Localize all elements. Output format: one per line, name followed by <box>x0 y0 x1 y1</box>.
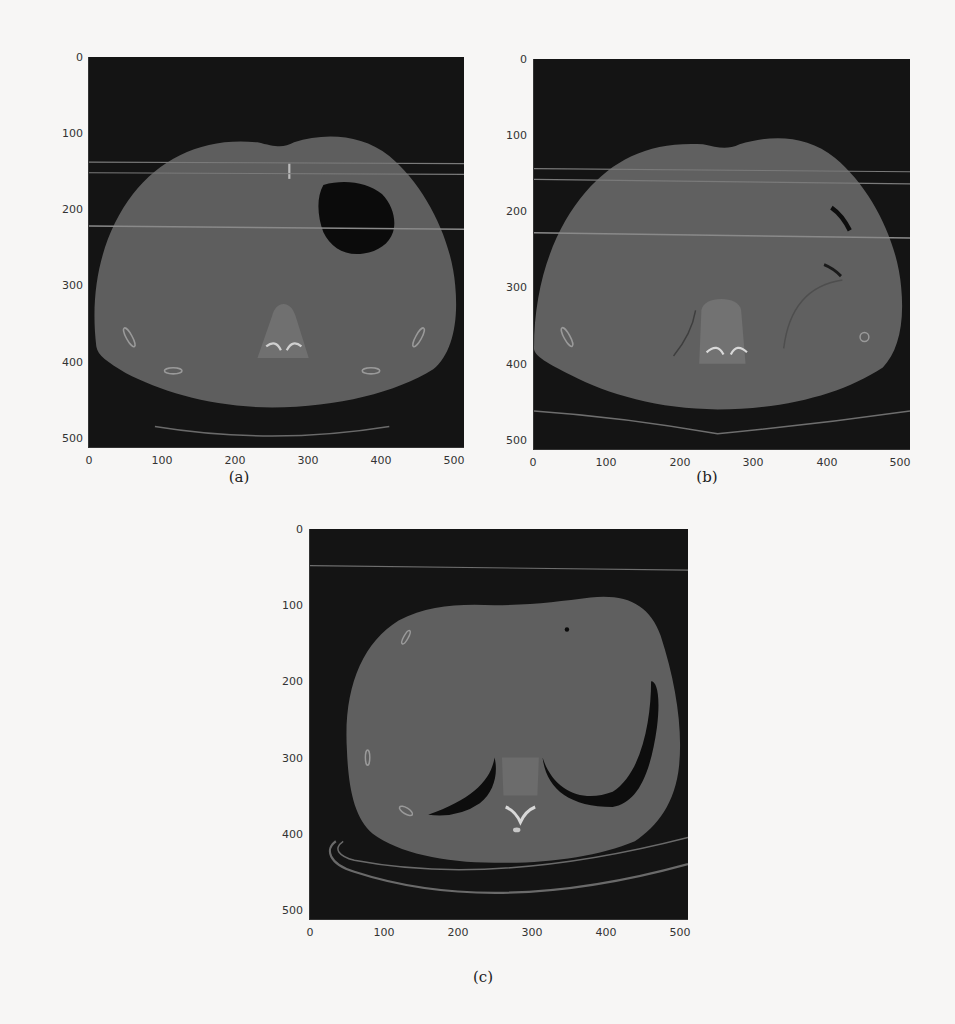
y-tick-label: 100 <box>273 600 303 611</box>
ct-image-b <box>534 59 910 449</box>
y-tick-label: 300 <box>497 282 527 293</box>
y-tick-label: 100 <box>53 128 83 139</box>
x-axis-line <box>533 449 910 450</box>
y-tick-label: 500 <box>497 435 527 446</box>
y-tick-label: 500 <box>53 433 83 444</box>
ct-image-a <box>89 57 464 447</box>
y-tick-label: 100 <box>497 130 527 141</box>
x-tick-label: 500 <box>439 455 469 466</box>
y-axis-line <box>533 59 534 450</box>
y-tick-label: 0 <box>273 524 303 535</box>
x-tick-label: 100 <box>369 927 399 938</box>
x-tick-label: 200 <box>220 455 250 466</box>
y-axis-line <box>309 529 310 920</box>
y-tick-label: 200 <box>497 206 527 217</box>
x-tick-label: 300 <box>517 927 547 938</box>
x-axis-line <box>309 919 688 920</box>
x-tick-label: 0 <box>74 455 104 466</box>
y-tick-label: 400 <box>53 357 83 368</box>
caption-c: (c) <box>463 968 503 986</box>
x-tick-label: 200 <box>443 927 473 938</box>
y-axis-line <box>88 57 89 448</box>
x-axis-line <box>88 447 464 448</box>
y-tick-label: 500 <box>273 905 303 916</box>
caption-a: (a) <box>219 468 259 486</box>
x-tick-label: 300 <box>738 457 768 468</box>
caption-b: (b) <box>687 468 727 486</box>
x-tick-label: 100 <box>591 457 621 468</box>
x-tick-label: 0 <box>518 457 548 468</box>
y-tick-label: 300 <box>273 753 303 764</box>
y-tick-label: 300 <box>53 280 83 291</box>
x-tick-label: 500 <box>665 927 695 938</box>
x-tick-label: 400 <box>591 927 621 938</box>
ct-image-c <box>310 529 688 919</box>
x-tick-label: 200 <box>665 457 695 468</box>
x-tick-label: 100 <box>147 455 177 466</box>
y-tick-label: 0 <box>497 54 527 65</box>
x-tick-label: 400 <box>812 457 842 468</box>
x-tick-label: 0 <box>295 927 325 938</box>
y-tick-label: 200 <box>53 204 83 215</box>
y-tick-label: 200 <box>273 676 303 687</box>
x-tick-label: 300 <box>293 455 323 466</box>
y-tick-label: 400 <box>273 829 303 840</box>
y-tick-label: 400 <box>497 359 527 370</box>
x-tick-label: 500 <box>885 457 915 468</box>
y-tick-label: 0 <box>53 52 83 63</box>
x-tick-label: 400 <box>366 455 396 466</box>
